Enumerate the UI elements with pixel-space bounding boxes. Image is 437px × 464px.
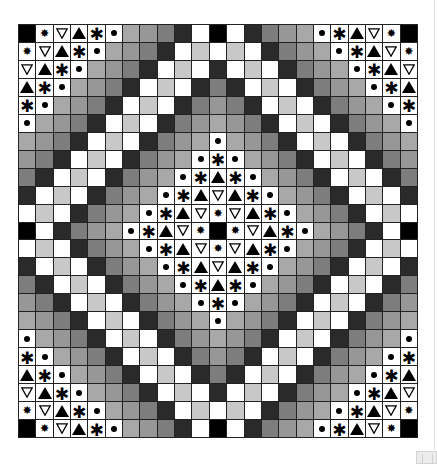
- grid-cell[interactable]: [383, 384, 399, 401]
- grid-cell[interactable]: [245, 312, 261, 329]
- grid-cell[interactable]: [175, 133, 191, 150]
- grid-cell[interactable]: [140, 420, 156, 437]
- grid-cell[interactable]: [383, 97, 399, 114]
- grid-cell[interactable]: [314, 330, 330, 347]
- grid-cell[interactable]: [401, 169, 417, 186]
- grid-cell[interactable]: [331, 258, 347, 275]
- grid-cell[interactable]: [297, 258, 313, 275]
- grid-cell[interactable]: ✱: [245, 187, 261, 204]
- grid-cell[interactable]: [71, 330, 87, 347]
- grid-cell[interactable]: [192, 384, 208, 401]
- grid-cell[interactable]: [36, 348, 52, 365]
- resize-handle[interactable]: [416, 451, 437, 464]
- grid-cell[interactable]: [123, 43, 139, 60]
- grid-cell[interactable]: [106, 79, 122, 96]
- grid-cell[interactable]: [349, 115, 365, 132]
- grid-cell[interactable]: [158, 312, 174, 329]
- grid-cell[interactable]: [192, 402, 208, 419]
- grid-cell[interactable]: [175, 151, 191, 168]
- grid-cell[interactable]: [106, 25, 122, 42]
- grid-cell[interactable]: [54, 133, 70, 150]
- grid-cell[interactable]: [210, 258, 226, 275]
- grid-cell[interactable]: [123, 61, 139, 78]
- grid-cell[interactable]: [140, 61, 156, 78]
- grid-cell[interactable]: [279, 79, 295, 96]
- grid-cell[interactable]: [140, 133, 156, 150]
- grid-cell[interactable]: [192, 420, 208, 437]
- grid-cell[interactable]: [192, 366, 208, 383]
- grid-cell[interactable]: [245, 348, 261, 365]
- grid-cell[interactable]: [158, 97, 174, 114]
- grid-cell[interactable]: [175, 240, 191, 257]
- grid-cell[interactable]: [71, 312, 87, 329]
- grid-cell[interactable]: [140, 151, 156, 168]
- grid-cell[interactable]: [314, 43, 330, 60]
- grid-cell[interactable]: [314, 420, 330, 437]
- grid-cell[interactable]: [71, 366, 87, 383]
- grid-cell[interactable]: [192, 240, 208, 257]
- grid-cell[interactable]: [54, 312, 70, 329]
- grid-cell[interactable]: [36, 133, 52, 150]
- grid-cell[interactable]: [140, 294, 156, 311]
- grid-cell[interactable]: [54, 151, 70, 168]
- grid-cell[interactable]: [175, 276, 191, 293]
- grid-cell[interactable]: [158, 61, 174, 78]
- grid-cell[interactable]: [140, 312, 156, 329]
- grid-cell[interactable]: [245, 25, 261, 42]
- grid-cell[interactable]: [36, 61, 52, 78]
- grid-cell[interactable]: [245, 402, 261, 419]
- grid-cell[interactable]: [106, 366, 122, 383]
- grid-cell[interactable]: [349, 384, 365, 401]
- grid-cell[interactable]: [297, 348, 313, 365]
- grid-cell[interactable]: [279, 205, 295, 222]
- grid-cell[interactable]: [383, 348, 399, 365]
- grid-cell[interactable]: [331, 151, 347, 168]
- grid-cell[interactable]: [54, 79, 70, 96]
- grid-cell[interactable]: [54, 294, 70, 311]
- grid-cell[interactable]: [19, 276, 35, 293]
- grid-cell[interactable]: [297, 384, 313, 401]
- grid-cell[interactable]: [366, 43, 382, 60]
- grid-cell[interactable]: [158, 330, 174, 347]
- grid-cell[interactable]: [19, 223, 35, 240]
- grid-cell[interactable]: ✱: [262, 240, 278, 257]
- grid-cell[interactable]: [245, 205, 261, 222]
- grid-cell[interactable]: [279, 258, 295, 275]
- grid-cell[interactable]: [262, 402, 278, 419]
- grid-cell[interactable]: [279, 384, 295, 401]
- grid-cell[interactable]: [262, 151, 278, 168]
- grid-cell[interactable]: [262, 258, 278, 275]
- grid-cell[interactable]: [158, 223, 174, 240]
- grid-cell[interactable]: [366, 25, 382, 42]
- grid-cell[interactable]: [401, 151, 417, 168]
- grid-cell[interactable]: ✱: [175, 187, 191, 204]
- grid-cell[interactable]: [314, 276, 330, 293]
- grid-cell[interactable]: [297, 97, 313, 114]
- grid-cell[interactable]: [19, 151, 35, 168]
- grid-cell[interactable]: [245, 294, 261, 311]
- grid-cell[interactable]: [331, 348, 347, 365]
- grid-cell[interactable]: [210, 384, 226, 401]
- grid-cell[interactable]: [192, 151, 208, 168]
- grid-cell[interactable]: ✸: [36, 420, 52, 437]
- grid-cell[interactable]: [210, 223, 226, 240]
- grid-cell[interactable]: [401, 223, 417, 240]
- grid-cell[interactable]: [71, 133, 87, 150]
- grid-cell[interactable]: [123, 294, 139, 311]
- grid-cell[interactable]: [210, 25, 226, 42]
- grid-cell[interactable]: [297, 276, 313, 293]
- grid-cell[interactable]: ✱: [140, 223, 156, 240]
- grid-cell[interactable]: [366, 151, 382, 168]
- grid-cell[interactable]: [88, 330, 104, 347]
- grid-cell[interactable]: [158, 187, 174, 204]
- grid-cell[interactable]: [71, 169, 87, 186]
- grid-cell[interactable]: [401, 366, 417, 383]
- grid-cell[interactable]: [36, 276, 52, 293]
- grid-cell[interactable]: [36, 402, 52, 419]
- grid-cell[interactable]: ✱: [227, 169, 243, 186]
- grid-cell[interactable]: [349, 187, 365, 204]
- grid-cell[interactable]: [349, 348, 365, 365]
- grid-cell[interactable]: [71, 79, 87, 96]
- grid-cell[interactable]: [88, 61, 104, 78]
- grid-cell[interactable]: [210, 97, 226, 114]
